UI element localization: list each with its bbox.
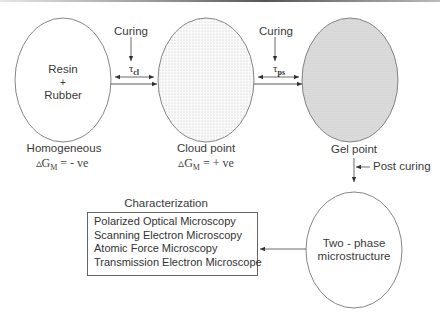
tau-cl-label: τcl (129, 62, 139, 77)
plus-label: + (44, 76, 82, 89)
homogeneous-delta-g: ▵GM = - ve (36, 156, 89, 172)
two-phase-line2: microstructure (318, 250, 391, 263)
gel-point-caption: Gel point (331, 143, 377, 155)
rubber-label: Rubber (44, 89, 82, 102)
delta-g-value: = - ve (57, 156, 88, 170)
tau-subscript: ps (277, 68, 285, 77)
tau-subscript: cl (133, 68, 139, 77)
technique-item: Polarized Optical Microscopy (94, 215, 257, 229)
characterization-box: Polarized Optical Microscopy Scanning El… (87, 212, 258, 276)
delta-g-subscript: M (193, 163, 200, 172)
two-phase-line1: Two - phase (318, 237, 391, 250)
delta-g-symbol: ▵G (178, 156, 193, 170)
technique-item: Scanning Electron Microscopy (94, 229, 257, 243)
cloud-point-delta-g: ▵GM = + ve (178, 156, 234, 172)
curing-label-1: Curing (114, 25, 148, 37)
delta-g-subscript: M (50, 163, 57, 172)
two-phase-content: Two - phase microstructure (318, 237, 391, 263)
delta-g-symbol: ▵G (36, 156, 51, 170)
tau-ps-label: τps (273, 62, 285, 77)
post-curing-label: Post curing (373, 160, 431, 172)
curing-label-2: Curing (259, 25, 293, 37)
resin-label: Resin (44, 63, 82, 76)
cloud-point-caption: Cloud point (177, 142, 235, 154)
technique-item: Transmission Electron Microscope (94, 256, 257, 270)
cloud-point-ellipse (158, 18, 254, 142)
gel-point-ellipse (302, 18, 398, 142)
homogeneous-content: Resin + Rubber (44, 63, 82, 102)
delta-g-value: = + ve (200, 156, 234, 170)
technique-item: Atomic Force Microscopy (94, 242, 257, 256)
characterization-title: Characterization (124, 197, 208, 209)
homogeneous-caption: Homogeneous (27, 142, 102, 154)
